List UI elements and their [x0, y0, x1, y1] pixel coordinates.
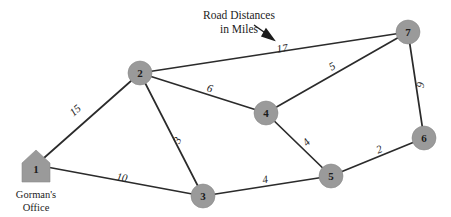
edge-weight-2-7: 17 [276, 41, 289, 55]
node-label-1: 1 [33, 163, 39, 175]
node-label-7: 7 [405, 26, 411, 38]
node-5[interactable]: 5 [319, 164, 343, 188]
title-line-2: in Miles [220, 23, 259, 35]
edge-weight-2-4: 6 [206, 81, 215, 94]
edge-weight-1-2: 15 [67, 102, 84, 119]
node-2[interactable]: 2 [128, 61, 152, 85]
title-line-1: Road Distances [203, 9, 275, 21]
edge-4-7 [266, 32, 408, 113]
edge-weight-5-6: 2 [374, 142, 384, 155]
edge-weight-6-7: 9 [414, 81, 427, 89]
edge-weight-4-5: 4 [300, 135, 313, 148]
node-caption-line-1: Gorman's [16, 189, 56, 200]
edge-2-3 [140, 73, 203, 196]
node-label-5: 5 [328, 170, 334, 182]
edges-layer [36, 32, 424, 196]
edge-2-7 [140, 32, 408, 73]
node-label-6: 6 [421, 132, 427, 144]
nodes-layer: 1Gorman'sOffice234567 [16, 20, 436, 213]
edge-weight-4-7: 5 [327, 59, 338, 72]
edge-2-4 [140, 73, 266, 113]
node-3[interactable]: 3 [191, 184, 215, 208]
node-label-2: 2 [137, 67, 143, 79]
node-label-4: 4 [263, 107, 269, 119]
node-caption-line-2: Office [23, 202, 50, 213]
edge-1-2 [36, 73, 140, 165]
node-label-3: 3 [200, 190, 206, 202]
network-graph-canvas: 1Gorman'sOffice234567 1510361744529 Road… [0, 0, 451, 217]
node-4[interactable]: 4 [254, 101, 278, 125]
road-network-diagram: 1Gorman'sOffice234567 1510361744529 Road… [0, 0, 451, 217]
node-1[interactable]: 1Gorman'sOffice [16, 150, 56, 213]
node-6[interactable]: 6 [412, 126, 436, 150]
edge-4-5 [266, 113, 331, 176]
edge-weights-layer: 1510361744529 [67, 41, 427, 185]
edge-weight-3-5: 4 [261, 173, 269, 186]
node-7[interactable]: 7 [396, 20, 420, 44]
